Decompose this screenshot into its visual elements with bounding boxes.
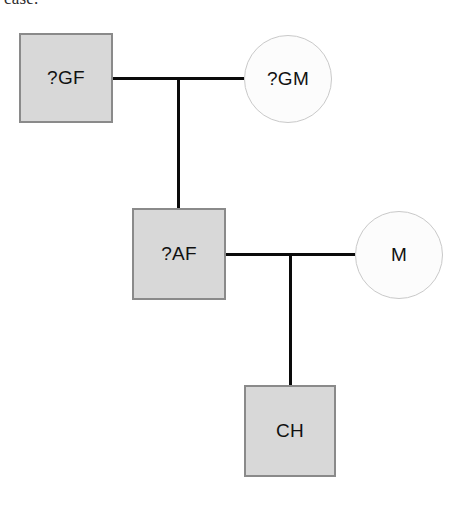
pedigree-node-child[interactable]: CH <box>244 385 336 477</box>
pedigree-diagram: case. ?GF ?GM ?AF M CH <box>0 0 467 506</box>
node-label-grandfather: ?GF <box>47 67 85 89</box>
node-label-child: CH <box>276 420 304 442</box>
pedigree-node-grandfather[interactable]: ?GF <box>19 33 113 123</box>
descent-line-to-child <box>289 253 292 385</box>
node-label-mother: M <box>391 244 407 266</box>
node-label-father: ?AF <box>161 243 197 265</box>
pedigree-node-grandmother[interactable]: ?GM <box>244 35 332 123</box>
node-label-grandmother: ?GM <box>267 68 309 90</box>
pedigree-node-father[interactable]: ?AF <box>132 208 226 300</box>
pedigree-node-mother[interactable]: M <box>355 211 443 299</box>
descent-line-to-father <box>177 77 180 208</box>
clipped-caption-text: case. <box>4 0 39 9</box>
